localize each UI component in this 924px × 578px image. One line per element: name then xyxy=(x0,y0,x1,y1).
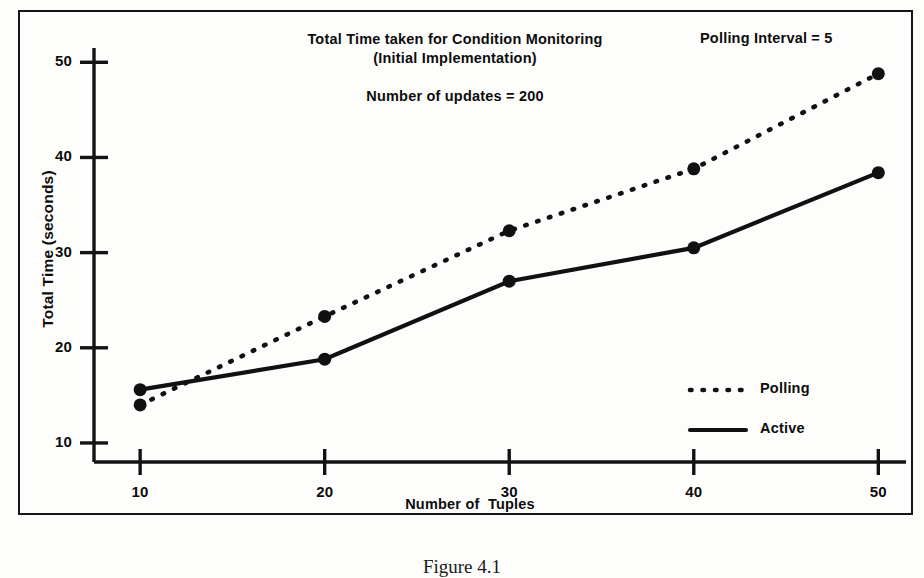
y-tick-label: 50 xyxy=(38,52,72,69)
x-axis-label: Number of Tuples xyxy=(350,496,590,512)
chart-title-line-1: Total Time taken for Condition Monitorin… xyxy=(307,31,602,47)
data-point-marker xyxy=(503,275,516,288)
chart-title-line-2: (Initial Implementation) xyxy=(373,50,537,66)
y-tick-label: 10 xyxy=(38,433,72,450)
data-point-marker xyxy=(687,162,700,175)
data-point-marker xyxy=(503,224,516,237)
data-point-marker xyxy=(872,166,885,179)
legend-label-polling: Polling xyxy=(760,380,810,396)
series-markers-polling xyxy=(134,67,885,411)
y-tick-label: 40 xyxy=(38,147,72,164)
chart-annotation-polling-interval: Polling Interval = 5 xyxy=(700,30,833,46)
x-tick-label: 30 xyxy=(479,483,539,500)
chart-subtitle-updates: Number of updates = 200 xyxy=(255,88,655,104)
data-point-marker xyxy=(134,398,147,411)
chart-title: Total Time taken for Condition Monitorin… xyxy=(255,30,655,68)
y-tick-label: 20 xyxy=(38,338,72,355)
data-point-marker xyxy=(687,241,700,254)
figure-page: Total Time taken for Condition Monitorin… xyxy=(0,0,924,578)
x-tick-label: 10 xyxy=(110,483,170,500)
legend-label-active: Active xyxy=(760,420,805,436)
data-point-marker xyxy=(872,67,885,80)
y-tick-label: 30 xyxy=(38,243,72,260)
data-point-marker xyxy=(134,383,147,396)
x-tick-label: 20 xyxy=(295,483,355,500)
data-point-marker xyxy=(318,353,331,366)
x-tick-label: 40 xyxy=(664,483,724,500)
series-markers-active xyxy=(134,166,885,396)
data-point-marker xyxy=(318,310,331,323)
series-line-polling xyxy=(140,74,878,405)
x-tick-label: 50 xyxy=(848,483,908,500)
figure-caption: Figure 4.1 xyxy=(0,556,924,578)
